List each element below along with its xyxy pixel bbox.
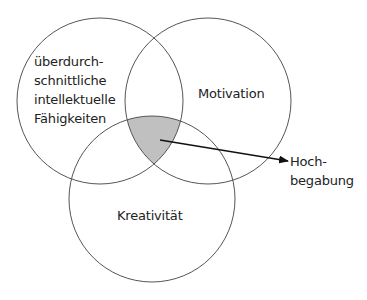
label-intellect: überdurch- schnittliche intellektuelle F… (34, 52, 115, 128)
label-line: schnittliche (34, 71, 115, 90)
intersection-region (69, 116, 235, 282)
label-motivation: Motivation (198, 84, 264, 103)
label-line: begabung (290, 171, 354, 190)
label-line: intellektuelle (34, 90, 115, 109)
venn-diagram (0, 0, 367, 300)
label-line: Motivation (198, 84, 264, 103)
label-line: überdurch- (34, 52, 115, 71)
label-line: Hoch- (290, 152, 354, 171)
label-creativity: Kreativität (117, 206, 183, 225)
label-giftedness: Hoch- begabung (290, 152, 354, 190)
label-line: Fähigkeiten (34, 109, 115, 128)
label-line: Kreativität (117, 206, 183, 225)
